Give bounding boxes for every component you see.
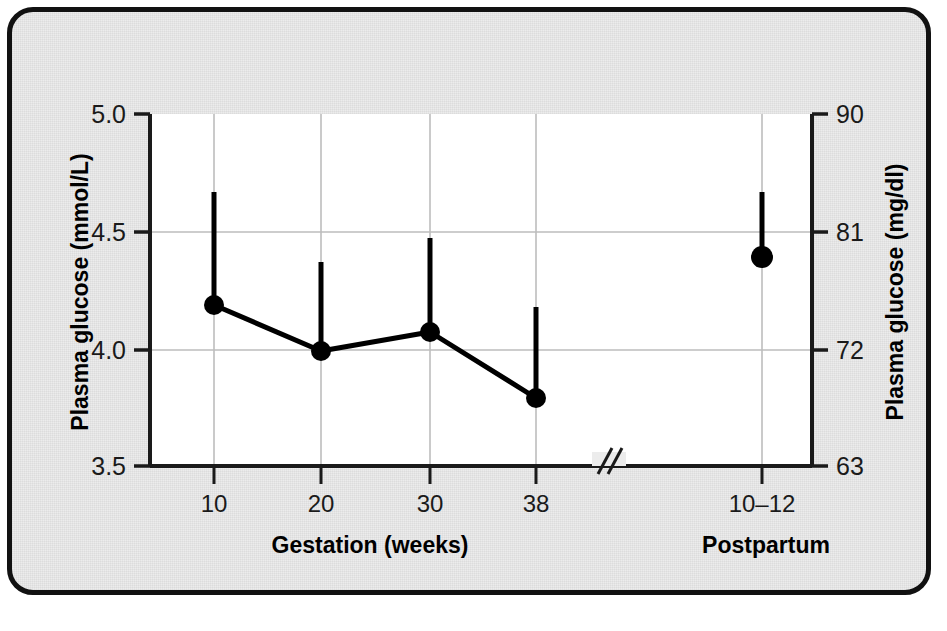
- data-point-marker: [204, 295, 224, 315]
- figure-root: 5.0 4.5 4.0 3.5 90 81 72 63 10 20 30 38 …: [0, 0, 947, 631]
- right-axis-ticks: [812, 114, 828, 466]
- right-tick-label-72: 72: [836, 336, 864, 364]
- left-tick-label-4-5: 4.5: [91, 218, 126, 246]
- y-axis-title-left: Plasma glucose (mmol/L): [67, 153, 93, 430]
- plot-background: [150, 114, 812, 466]
- y-axis-title-right: Plasma glucose (mg/dl): [882, 164, 908, 421]
- data-point-marker: [311, 341, 331, 361]
- right-tick-label-90: 90: [836, 100, 864, 128]
- bottom-axis-ticks: [214, 466, 762, 484]
- left-tick-label-3-5: 3.5: [91, 452, 126, 480]
- right-tick-label-81: 81: [836, 218, 864, 246]
- x-tick-label-postpartum-weeks: 10–12: [729, 490, 796, 517]
- left-tick-label-5-0: 5.0: [91, 100, 126, 128]
- left-axis-ticks: [134, 114, 150, 466]
- data-point-marker: [526, 388, 546, 408]
- right-tick-label-63: 63: [836, 452, 864, 480]
- x-axis-title-postpartum: Postpartum: [702, 532, 830, 558]
- x-tick-label-38: 38: [523, 490, 550, 517]
- x-axis-title-gestation: Gestation (weeks): [272, 532, 469, 558]
- x-tick-label-10: 10: [201, 490, 228, 517]
- x-tick-label-20: 20: [308, 490, 335, 517]
- data-point-marker: [751, 246, 773, 268]
- x-tick-label-30: 30: [417, 490, 444, 517]
- left-tick-label-4-0: 4.0: [91, 336, 126, 364]
- chart-plot-area: 5.0 4.5 4.0 3.5 90 81 72 63 10 20 30 38 …: [0, 0, 947, 631]
- data-point-marker: [420, 322, 440, 342]
- chart-svg: 5.0 4.5 4.0 3.5 90 81 72 63 10 20 30 38 …: [0, 0, 947, 631]
